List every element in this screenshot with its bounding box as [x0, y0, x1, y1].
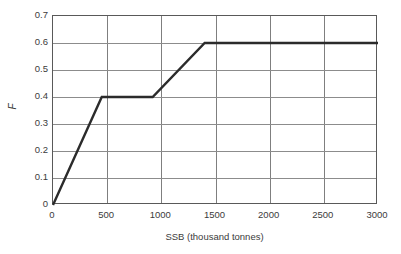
x-tick-label-2500: 2500 — [303, 209, 343, 220]
y-tick-label-0-4: 0.4 — [22, 91, 48, 101]
y-tick-label-0-7: 0.7 — [22, 10, 48, 20]
x-tick-label-500: 500 — [86, 209, 126, 220]
chart-figure: 00.10.20.30.40.50.60.7 05001000150020002… — [0, 0, 401, 254]
y-tick-label-0-2: 0.2 — [22, 145, 48, 155]
y-tick-label-0-1: 0.1 — [22, 172, 48, 182]
x-tick-label-1500: 1500 — [195, 209, 235, 220]
y-tick-label-0: 0 — [22, 199, 48, 209]
series-layer — [53, 16, 378, 205]
y-tick-label-0-3: 0.3 — [22, 118, 48, 128]
plot-area — [52, 15, 377, 204]
x-tick-label-1000: 1000 — [140, 209, 180, 220]
x-tick-label-2000: 2000 — [249, 209, 289, 220]
x-tick-label-0: 0 — [32, 209, 72, 220]
x-tick-label-3000: 3000 — [357, 209, 397, 220]
y-axis-title: F — [7, 87, 18, 127]
series-line-harvest-control-rule — [53, 43, 378, 205]
x-axis-title: SSB (thousand tonnes) — [52, 231, 377, 242]
y-tick-label-0-5: 0.5 — [22, 64, 48, 74]
x-axis-tick-labels: 050010001500200025003000 — [52, 209, 377, 223]
y-axis-tick-labels: 00.10.20.30.40.50.60.7 — [18, 15, 48, 204]
y-tick-label-0-6: 0.6 — [22, 37, 48, 47]
